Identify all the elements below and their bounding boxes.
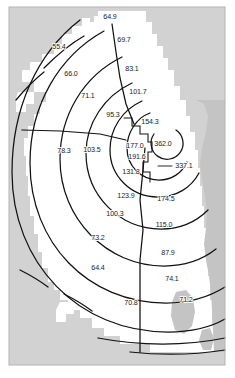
map-graphic [0, 0, 235, 378]
contour-map-figure: 64.969.755.483.166.071.1101.795.3154.317… [0, 0, 235, 378]
